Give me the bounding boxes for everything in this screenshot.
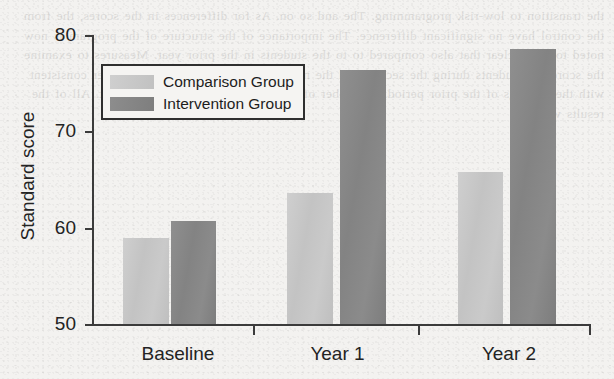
bar-year1-comparison (287, 193, 333, 324)
legend-label-comparison: Comparison Group (163, 73, 294, 91)
bar-year2-comparison (458, 172, 503, 324)
scanned-page: the transition to low-risk programming. … (0, 0, 614, 379)
y-tick-label-70: 70 (30, 120, 76, 142)
legend-label-intervention: Intervention Group (163, 95, 291, 113)
x-label-year-2: Year 2 (434, 343, 584, 365)
x-axis-line (92, 324, 591, 326)
y-tick-50 (85, 324, 93, 326)
y-tick-label-60: 60 (30, 217, 76, 239)
legend-item-comparison: Comparison Group (110, 71, 296, 93)
legend-swatch-intervention-icon (110, 97, 154, 111)
x-tick-separator-2 (418, 326, 420, 335)
x-label-baseline: Baseline (108, 343, 248, 365)
y-tick-label-50: 50 (30, 313, 76, 335)
bar-year1-intervention (340, 70, 386, 324)
y-tick-label-80: 80 (30, 24, 76, 46)
y-tick-70 (85, 131, 93, 133)
legend-item-intervention: Intervention Group (110, 93, 296, 115)
x-label-year-1: Year 1 (265, 343, 410, 365)
y-axis-title: Standard score (17, 86, 39, 266)
bar-year2-intervention (510, 49, 556, 324)
bar-chart: Standard score 80 70 60 50 Baseline Year… (0, 0, 614, 379)
bar-baseline-comparison (123, 238, 169, 324)
y-axis-line (92, 35, 94, 326)
y-tick-80 (85, 35, 93, 37)
legend-swatch-comparison-icon (110, 75, 154, 89)
bar-baseline-intervention (171, 221, 216, 324)
chart-legend: Comparison Group Intervention Group (101, 64, 305, 120)
y-tick-60 (85, 228, 93, 230)
x-tick-separator-1 (253, 326, 255, 335)
x-tick-separator-3 (589, 326, 591, 335)
